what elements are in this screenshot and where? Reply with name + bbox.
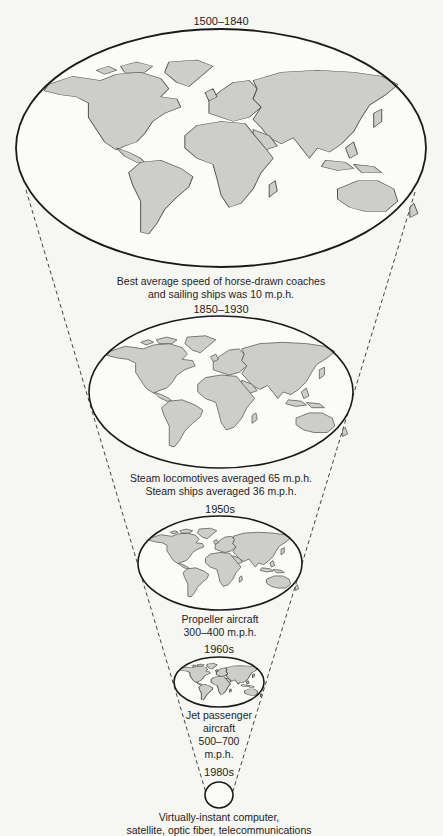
caption-line: 500–700 <box>186 735 252 748</box>
caption-line: 300–400 m.p.h. <box>181 626 258 639</box>
era-label-1950s: 1950s <box>205 503 235 516</box>
caption-line: satellite, optic fiber, telecommunicatio… <box>126 824 311 836</box>
world-ellipse-4 <box>174 657 264 707</box>
caption-line: m.p.h. <box>186 748 252 761</box>
caption-horse-coaches: Best average speed of horse-drawn coache… <box>117 275 325 301</box>
world-ellipse-5 <box>205 782 233 808</box>
caption-telecommunications: Virtually-instant computer, satellite, o… <box>126 811 311 836</box>
era-label-1500-1840: 1500–1840 <box>193 15 248 28</box>
world-ellipse-1 <box>16 29 426 267</box>
caption-line: Best average speed of horse-drawn coache… <box>117 275 325 288</box>
world-ellipse-2 <box>89 316 353 468</box>
caption-propeller-aircraft: Propeller aircraft 300–400 m.p.h. <box>181 613 258 639</box>
caption-line: Propeller aircraft <box>181 613 258 626</box>
caption-jet-aircraft: Jet passenger aircraft 500–700 m.p.h. <box>186 709 252 761</box>
caption-steam: Steam locomotives averaged 65 m.p.h. Ste… <box>130 472 312 498</box>
caption-line: aircraft <box>186 722 252 735</box>
caption-line: Steam locomotives averaged 65 m.p.h. <box>130 472 312 485</box>
era-label-1980s: 1980s <box>204 766 234 779</box>
time-space-compression-diagram: 1500–1840 Best average speed of horse-dr… <box>0 0 443 836</box>
caption-line: Steam ships averaged 36 m.p.h. <box>130 485 312 498</box>
era-label-1850-1930: 1850–1930 <box>193 303 248 316</box>
world-ellipse-3 <box>138 516 302 610</box>
caption-line: Virtually-instant computer, <box>126 811 311 824</box>
world-ellipses <box>16 29 426 808</box>
caption-line: and sailing ships was 10 m.p.h. <box>117 288 325 301</box>
caption-line: Jet passenger <box>186 709 252 722</box>
era-label-1960s: 1960s <box>204 643 234 656</box>
